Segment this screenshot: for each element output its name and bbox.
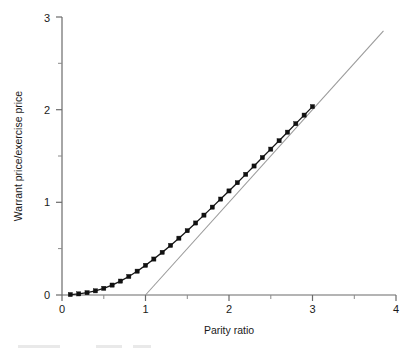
data-point-marker [269, 147, 273, 151]
data-point-marker [110, 283, 114, 287]
data-point-marker [285, 130, 289, 134]
y-tick-label-3: 3 [44, 12, 50, 24]
data-point-marker [68, 292, 72, 296]
data-point-marker [160, 250, 164, 254]
data-point-marker [202, 213, 206, 217]
data-point-marker [219, 197, 223, 201]
data-point-marker [194, 221, 198, 225]
data-point-marker [77, 292, 81, 296]
x-tick-label-4: 4 [393, 303, 399, 315]
data-point-marker [252, 164, 256, 168]
data-point-marker [302, 113, 306, 117]
data-point-marker [210, 205, 214, 209]
page-scan-smudge [18, 345, 60, 348]
warrant-data-markers [68, 105, 314, 297]
warrant-price-chart: 0 1 2 3 0 1 2 3 4 Parity ratio Warrant p… [0, 0, 419, 353]
x-axis-title: Parity ratio [204, 324, 254, 336]
data-point-marker [143, 263, 147, 267]
data-point-marker [244, 172, 248, 176]
y-tick-label-2: 2 [44, 104, 50, 116]
y-axis-title: Warrant price/exercise price [12, 91, 24, 221]
data-point-marker [168, 243, 172, 247]
data-point-marker [310, 105, 314, 109]
data-point-marker [135, 269, 139, 273]
data-point-marker [93, 289, 97, 293]
x-tick-label-2: 2 [226, 303, 232, 315]
data-point-marker [177, 236, 181, 240]
x-tick-label-3: 3 [309, 303, 315, 315]
data-point-marker [185, 229, 189, 233]
x-tick-label-0: 0 [59, 303, 65, 315]
data-point-marker [152, 257, 156, 261]
page-scan-smudge [133, 345, 151, 348]
data-point-marker [118, 279, 122, 283]
warrant-price-curve [70, 107, 312, 295]
data-point-marker [260, 155, 264, 159]
x-tick-label-1: 1 [142, 303, 148, 315]
data-point-marker [127, 274, 131, 278]
y-tick-label-0: 0 [44, 289, 50, 301]
data-point-marker [102, 286, 106, 290]
y-tick-label-1: 1 [44, 196, 50, 208]
page-scan-smudge [96, 345, 122, 348]
data-point-marker [85, 291, 89, 295]
x-axis-major-ticks [62, 295, 396, 301]
data-point-marker [227, 189, 231, 193]
data-point-marker [294, 122, 298, 126]
intrinsic-value-line [146, 31, 384, 295]
data-point-marker [235, 181, 239, 185]
chart-figure: 0 1 2 3 0 1 2 3 4 Parity ratio Warrant p… [0, 0, 419, 353]
data-point-marker [277, 139, 281, 143]
